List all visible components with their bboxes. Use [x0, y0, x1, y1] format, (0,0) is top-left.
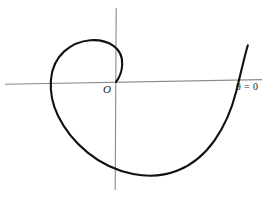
polar-spiral-figure: O θ = 0	[0, 0, 262, 204]
theta-zero-label: θ = 0	[236, 82, 258, 92]
origin-label: O	[103, 84, 111, 95]
logarithmic-spiral-curve	[51, 40, 248, 176]
spiral-plot-svg	[0, 0, 262, 204]
figure-caption	[0, 194, 262, 204]
vertical-axis	[115, 8, 116, 190]
horizontal-axis	[5, 80, 262, 85]
